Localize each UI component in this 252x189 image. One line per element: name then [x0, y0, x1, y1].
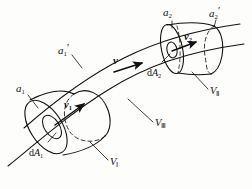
- leader-dA1: [48, 133, 56, 142]
- left-cylinder-bottom-edge: [63, 136, 105, 155]
- label-v2: v2: [184, 32, 192, 43]
- label-dA2: dA2: [147, 68, 161, 79]
- label-a2-sub: 2: [169, 12, 172, 19]
- left-cylinder-back-face-visible: [74, 91, 110, 136]
- label-V2-sub: Ⅱ: [216, 90, 219, 97]
- label-volume-1: VⅠ: [110, 157, 118, 168]
- label-a2: a2: [163, 7, 172, 20]
- label-a2p-prime: ′: [218, 5, 220, 16]
- label-v: v: [113, 55, 118, 66]
- figure-canvas: a1 a1′ a2 a2′ v1 v2 v dA1 dA2 VⅠ VⅡ VⅢ: [0, 0, 252, 189]
- label-a1-prime: a1′: [58, 43, 69, 57]
- label-a2-prime: a2′: [209, 6, 220, 20]
- label-dA2-sub: 2: [158, 72, 161, 79]
- label-a1-sub: 1: [22, 88, 25, 95]
- leader-V3: [128, 99, 153, 122]
- label-v1-sub: 1: [69, 104, 72, 111]
- label-dA1-sub: 1: [40, 152, 43, 159]
- label-dA1: dA1: [29, 148, 43, 159]
- leader-a2-prime: [214, 20, 216, 27]
- label-a1: a1: [16, 83, 25, 96]
- label-v2-sub: 2: [189, 36, 192, 43]
- v-arrow: [114, 63, 142, 72]
- leader-V1: [90, 142, 108, 160]
- label-a1p-prime: ′: [67, 42, 69, 53]
- label-v-base: v: [113, 54, 118, 66]
- label-V1-sub: Ⅰ: [116, 161, 118, 168]
- right-cylinder-back-face-visible: [211, 26, 223, 74]
- label-volume-3: VⅢ: [155, 118, 166, 129]
- label-volume-2: VⅡ: [210, 86, 219, 97]
- right-cylinder-top-edge: [167, 23, 214, 26]
- leader-a1-prime: [72, 55, 82, 68]
- label-V3-sub: Ⅲ: [161, 122, 166, 129]
- label-v1: v1: [64, 100, 72, 111]
